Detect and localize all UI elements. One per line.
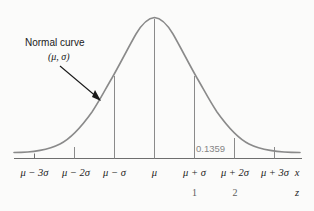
x-tick-label-plus-3sigma: μ + 3σ: [260, 167, 290, 178]
z-axis-tick-labels: 1 2: [192, 187, 238, 198]
x-tick-label-minus-3sigma: μ − 3σ: [19, 167, 49, 178]
x-tick-label-minus-1sigma: μ − σ: [102, 167, 127, 178]
annotation-line-1: Normal curve: [25, 37, 85, 48]
x-axis-name: x: [294, 167, 300, 178]
z-tick-label-2: 2: [233, 187, 238, 198]
x-tick-label-mu: μ: [151, 167, 157, 178]
x-axis-tick-labels: μ − 3σ μ − 2σ μ − σ μ μ + σ μ + 2σ μ + 3…: [19, 167, 289, 178]
z-axis-name: z: [294, 187, 299, 198]
x-tick-label-minus-2sigma: μ − 2σ: [61, 167, 91, 178]
z-tick-label-1: 1: [192, 187, 197, 198]
annotation-line-2: (μ, σ): [48, 51, 70, 63]
x-tick-label-plus-2sigma: μ + 2σ: [220, 167, 250, 178]
normal-curve-figure: 0.1359 Normal curve (μ, σ) μ − 3σ μ − 2σ…: [0, 0, 314, 211]
figure-canvas: 0.1359 Normal curve (μ, σ) μ − 3σ μ − 2σ…: [0, 0, 314, 211]
x-tick-label-plus-1sigma: μ + σ: [182, 167, 207, 178]
annotation-arrow: [60, 66, 101, 101]
area-value-label: 0.1359: [196, 143, 225, 154]
